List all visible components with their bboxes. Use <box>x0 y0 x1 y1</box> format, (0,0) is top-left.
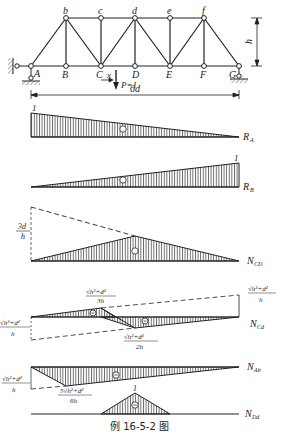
svg-text:h: h <box>259 296 263 304</box>
svg-text:Cd: Cd <box>257 324 265 330</box>
svg-text:5√h²+d²: 5√h²+d² <box>60 387 84 395</box>
svg-text:1: 1 <box>133 384 137 393</box>
svg-text:1: 1 <box>234 153 239 163</box>
svg-text:A: A <box>33 68 41 79</box>
influence-line-RB: + 1 R B <box>31 153 254 193</box>
unit-load-arrow <box>113 70 119 90</box>
svg-text:h: h <box>12 386 16 394</box>
svg-text:+: + <box>122 128 125 133</box>
svg-text:3h: 3h <box>96 297 105 305</box>
svg-text:6h: 6h <box>70 397 78 405</box>
svg-text:CD: CD <box>254 261 263 267</box>
span-label: 6d <box>130 83 141 94</box>
svg-text:√h²+d²: √h²+d² <box>0 319 21 327</box>
influence-line-figure: b c d e f A B C D E F G h x P=1 6d <box>0 0 281 434</box>
position-label: x <box>106 70 111 80</box>
svg-text:B: B <box>250 187 254 193</box>
svg-text:R: R <box>242 131 249 142</box>
svg-text:Dd: Dd <box>251 414 260 420</box>
influence-line-NCd: √h²+d² 3h √h²+d² 2h √h²+d² h √h²+d² h N … <box>0 285 276 351</box>
svg-text:b: b <box>63 5 68 16</box>
svg-text:2h: 2h <box>136 343 144 351</box>
truss <box>31 18 239 66</box>
svg-text:A: A <box>249 137 254 143</box>
svg-text:C: C <box>96 69 103 80</box>
svg-text:√h²+d²: √h²+d² <box>2 375 23 383</box>
svg-text:e: e <box>167 5 172 16</box>
svg-text:√h²+d²: √h²+d² <box>124 333 145 341</box>
svg-text:E: E <box>165 69 172 80</box>
svg-text:G: G <box>229 69 236 80</box>
svg-text:√h²+d²: √h²+d² <box>248 285 269 293</box>
svg-text:h: h <box>11 330 15 338</box>
svg-text:f: f <box>202 5 206 16</box>
svg-text:R: R <box>242 181 249 192</box>
svg-text:c: c <box>98 5 103 16</box>
svg-text:F: F <box>199 69 207 80</box>
height-label: h <box>243 39 254 44</box>
influence-line-NCD: + 3d h N CD <box>16 207 263 267</box>
svg-text:D: D <box>131 69 140 80</box>
svg-text:+: + <box>122 179 125 184</box>
figure-caption: 例 16-5-2 图 <box>110 420 169 432</box>
influence-line-RA: + 1 R A <box>31 103 254 143</box>
svg-text:d: d <box>132 5 138 16</box>
svg-text:B: B <box>62 69 68 80</box>
svg-text:3d: 3d <box>17 222 27 231</box>
svg-text:1: 1 <box>32 103 37 113</box>
svg-text:√h²+d²: √h²+d² <box>86 288 107 296</box>
svg-text:h: h <box>21 232 25 241</box>
svg-text:Ab: Ab <box>253 367 261 373</box>
svg-text:+: + <box>134 250 137 255</box>
